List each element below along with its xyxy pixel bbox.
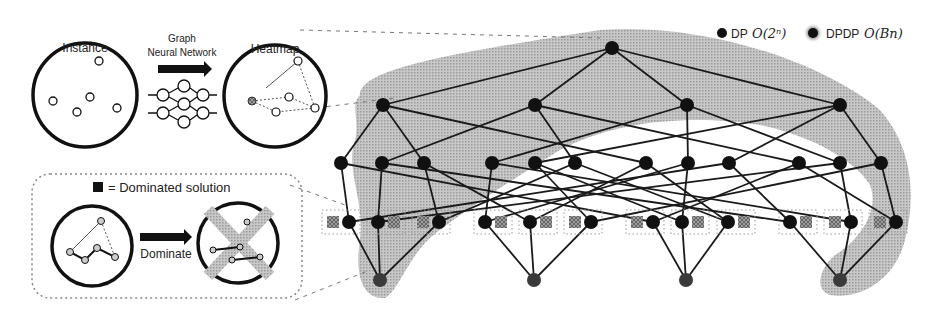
level1-node (376, 98, 390, 112)
level3-node (523, 215, 537, 229)
dp-legend-label: DP (731, 27, 748, 41)
dominated-solution-marker (692, 216, 704, 228)
dominated-solution-marker (417, 216, 429, 228)
instance-label: Instance (62, 41, 108, 55)
neural-network-icon (148, 80, 217, 128)
dpdp-legend-complexity: O(Bn) (864, 26, 903, 41)
figure-canvas: Instance Graph Neural Network Heatmap (0, 0, 938, 316)
dominated-solution-marker (829, 216, 841, 228)
dpdp-figure: Instance Graph Neural Network Heatmap (0, 0, 938, 316)
heatmap-panel: Heatmap (224, 42, 326, 147)
dp-legend-complexity: O(2ⁿ) (752, 26, 786, 41)
dominated-solution-marker (631, 216, 643, 228)
level2-node (334, 156, 348, 170)
dominated-solution-marker (800, 216, 812, 228)
level1-node (528, 98, 542, 112)
bottom-node (373, 273, 387, 287)
level3-node (584, 215, 598, 229)
bottom-node (679, 273, 693, 287)
level3-node (783, 215, 797, 229)
gnn-block: Graph Neural Network (148, 33, 218, 128)
level3-node (646, 215, 660, 229)
level2-node (485, 156, 499, 170)
level2-node (874, 156, 888, 170)
dominated-legend-text: = Dominated solution (108, 180, 231, 195)
depot-node (248, 97, 256, 105)
dominance-box: = Dominated solution Dominate (32, 174, 302, 298)
gnn-label-line2: Neural Network (148, 47, 218, 58)
level1-node (833, 98, 847, 112)
level2-node (833, 156, 847, 170)
dominated-solution-marker (540, 216, 552, 228)
gnn-label-line1: Graph (168, 33, 196, 44)
level2-node (417, 156, 431, 170)
arrow-right-icon (140, 229, 192, 245)
level3-node (342, 215, 356, 229)
level1-node (680, 98, 694, 112)
level2-node (528, 156, 542, 170)
dominated-solution-marker (569, 216, 581, 228)
level2-node (568, 156, 582, 170)
level2-node (792, 156, 806, 170)
heatmap-label: Heatmap (251, 42, 300, 56)
dominated-solution-marker (495, 216, 507, 228)
level3-node (371, 215, 385, 229)
arrow-right-icon (158, 61, 212, 77)
dominated-solution-marker (327, 216, 339, 228)
level3-node (889, 215, 903, 229)
bottom-node (833, 273, 847, 287)
dpdp-legend-label: DPDP (826, 27, 859, 41)
level3-node (478, 215, 492, 229)
dominated-legend-swatch (93, 182, 103, 192)
dpdp-shaded-region (352, 29, 911, 298)
legend: DP O(2ⁿ) DPDP O(Bn) (717, 23, 903, 43)
level2-node (375, 156, 389, 170)
level2-node (639, 156, 653, 170)
dominated-solution-marker (388, 216, 400, 228)
dominated-solution-marker (738, 216, 750, 228)
level3-node (675, 215, 689, 229)
level2-node (681, 156, 695, 170)
dpdp-legend-dot (808, 28, 818, 38)
level3-node (721, 215, 735, 229)
dp-legend-dot (717, 28, 727, 38)
level3-node (844, 215, 858, 229)
level3-node (432, 215, 446, 229)
level2-node (722, 156, 736, 170)
root-node (605, 41, 619, 55)
instance-panel: Instance (33, 41, 137, 147)
dominate-label: Dominate (140, 247, 192, 261)
bottom-node (527, 273, 541, 287)
dominated-solution-marker (874, 216, 886, 228)
